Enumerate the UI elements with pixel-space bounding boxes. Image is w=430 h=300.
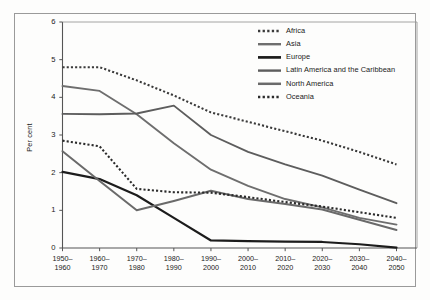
x-tick-label-line: 1970– — [117, 254, 157, 263]
x-tick-label-line: 2040– — [377, 254, 417, 263]
y-tick-label: 4 — [40, 92, 56, 101]
y-tick-label: 0 — [40, 243, 56, 252]
plot-shell: Per cent 0123456 1950–19601960–19701970–… — [0, 0, 430, 300]
x-tick-label-line: 2010 — [228, 263, 268, 272]
y-tick-label: 6 — [40, 17, 56, 26]
x-tick-label-line: 2040 — [339, 263, 379, 272]
legend-label: Asia — [286, 39, 301, 48]
x-tick-label-line: 1970 — [80, 263, 120, 272]
x-tick-label-line: 2050 — [377, 263, 417, 272]
y-tick-label: 1 — [40, 205, 56, 214]
y-tick-label: 2 — [40, 168, 56, 177]
x-tick-label: 2010–2020 — [265, 254, 305, 273]
x-tick-label-line: 2010– — [265, 254, 305, 263]
x-tick-label: 1950–1960 — [43, 254, 83, 273]
x-tick-label: 2000–2010 — [228, 254, 268, 273]
axes-group — [59, 22, 417, 251]
legend-label: Africa — [286, 26, 305, 35]
x-tick-label-line: 2030 — [302, 263, 342, 272]
y-tick-label: 5 — [40, 55, 56, 64]
x-tick-label: 1970–1980 — [117, 254, 157, 273]
legend-label: North America — [286, 79, 333, 88]
legend-label: Oceania — [286, 92, 314, 101]
y-tick-label: 3 — [40, 130, 56, 139]
x-tick-label: 1980–1990 — [154, 254, 194, 273]
x-tick-label-line: 1950– — [43, 254, 83, 263]
x-tick-label: 2030–2040 — [339, 254, 379, 273]
x-tick-label: 1990–2000 — [191, 254, 231, 273]
x-tick-label-line: 1960 — [43, 263, 83, 272]
chart-figure: THE UNIVERSITY OF URBANIZATION AND Per c… — [0, 0, 430, 300]
x-tick-label: 2040–2050 — [377, 254, 417, 273]
legend-label: Latin America and the Caribbean — [286, 65, 395, 74]
y-axis-title: Per cent — [25, 108, 34, 168]
x-tick-label-line: 2020– — [302, 254, 342, 263]
x-tick-label: 1960–1970 — [80, 254, 120, 273]
x-tick-label-line: 1990– — [191, 254, 231, 263]
legend-label: Europe — [286, 52, 310, 61]
x-tick-label-line: 2030– — [339, 254, 379, 263]
x-tick-label-line: 2020 — [265, 263, 305, 272]
x-tick-label-line: 1980– — [154, 254, 194, 263]
x-tick-label: 2020–2030 — [302, 254, 342, 273]
x-tick-label-line: 1990 — [154, 263, 194, 272]
x-tick-label-line: 1960– — [80, 254, 120, 263]
x-tick-label-line: 2000– — [228, 254, 268, 263]
x-tick-label-line: 2000 — [191, 263, 231, 272]
x-tick-label-line: 1980 — [117, 263, 157, 272]
